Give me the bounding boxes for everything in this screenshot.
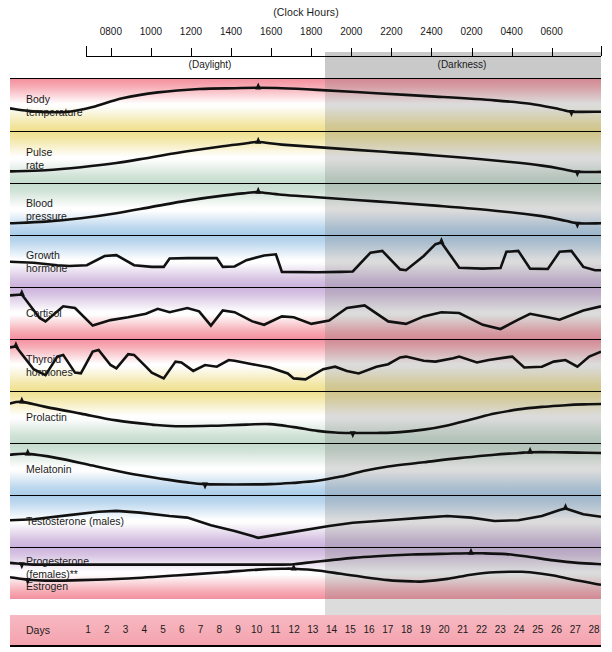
row-label-8: Melatonin xyxy=(26,463,72,476)
curve-group-7 xyxy=(10,391,601,443)
clock-tick-1600 xyxy=(271,48,272,56)
rhythm-row-8: Melatonin xyxy=(10,443,601,495)
row-divider-3 xyxy=(10,235,601,236)
darkness-label: (Darkness) xyxy=(438,59,487,70)
curve-cortisol xyxy=(10,295,601,330)
day-number-7: 7 xyxy=(198,624,204,635)
curve-blood-pressure xyxy=(10,192,601,223)
curve-group-6 xyxy=(10,339,601,391)
day-number-5: 5 xyxy=(160,624,166,635)
rhythm-row-7: Prolactin xyxy=(10,391,601,443)
row-divider-4 xyxy=(10,287,601,288)
clock-tick-label-0200: 0200 xyxy=(460,26,482,37)
curve-group-1 xyxy=(10,79,601,131)
clock-tick-label-2000: 2000 xyxy=(340,26,362,37)
day-number-8: 8 xyxy=(216,624,222,635)
row-label-2: Pulse rate xyxy=(26,146,52,171)
clock-tick-1000 xyxy=(151,48,152,56)
curve-melatonin xyxy=(10,452,601,484)
day-number-12: 12 xyxy=(289,624,300,635)
peak-marker xyxy=(468,548,474,555)
clock-hours-title: (Clock Hours) xyxy=(0,6,612,18)
peak-marker xyxy=(19,396,25,403)
peak-marker xyxy=(255,137,261,144)
row-label-3: Blood pressure xyxy=(26,197,67,222)
clock-tick-0800 xyxy=(111,48,112,56)
clock-tick-label-1600: 1600 xyxy=(260,26,282,37)
peak-marker xyxy=(19,289,25,296)
rhythm-row-9: Testosterone (males) xyxy=(10,495,601,547)
clock-tick-0200 xyxy=(472,48,473,56)
day-number-28: 28 xyxy=(588,624,599,635)
row-label-4: Growth hormone xyxy=(26,249,67,274)
row-divider-2 xyxy=(10,183,601,184)
row-label-10: Progesterone (females)** Estrogen xyxy=(26,555,89,593)
clock-tick-2400 xyxy=(431,48,432,56)
clock-axis: 0800100012001400160018002000220024000200… xyxy=(0,26,612,72)
peak-marker xyxy=(25,448,31,455)
rhythm-row-5: Cortisol xyxy=(10,287,601,339)
curve-progesterone-females xyxy=(10,553,601,564)
curve-thyroid-hormones xyxy=(10,347,601,380)
rhythm-row-1: Body temperature xyxy=(10,79,601,131)
trough-marker xyxy=(202,483,208,490)
rhythm-row-4: Growth hormone xyxy=(10,235,601,287)
curve-group-8 xyxy=(10,443,601,495)
day-number-6: 6 xyxy=(179,624,185,635)
peak-marker xyxy=(527,447,533,454)
clock-axis-cap-left xyxy=(86,46,87,56)
clock-tick-label-0400: 0400 xyxy=(500,26,522,37)
days-axis-label: Days xyxy=(26,624,50,636)
peak-marker xyxy=(13,341,19,348)
curve-group-2 xyxy=(10,132,601,184)
day-number-17: 17 xyxy=(382,624,393,635)
curve-group-10 xyxy=(10,547,601,599)
row-label-5: Cortisol xyxy=(26,307,62,320)
clock-tick-2000 xyxy=(351,48,352,56)
clock-tick-label-1000: 1000 xyxy=(140,26,162,37)
day-number-9: 9 xyxy=(235,624,241,635)
day-number-14: 14 xyxy=(326,624,337,635)
day-number-22: 22 xyxy=(476,624,487,635)
day-number-21: 21 xyxy=(457,624,468,635)
peak-marker xyxy=(563,503,569,510)
day-number-26: 26 xyxy=(551,624,562,635)
clock-tick-label-2400: 2400 xyxy=(420,26,442,37)
row-divider-1 xyxy=(10,131,601,132)
trough-marker xyxy=(19,562,25,569)
trough-marker xyxy=(568,110,574,117)
row-label-9: Testosterone (males) xyxy=(26,515,124,528)
clock-tick-label-0800: 0800 xyxy=(100,26,122,37)
rhythm-row-3: Blood pressure xyxy=(10,183,601,235)
curve-estrogen xyxy=(10,569,601,585)
curve-group-4 xyxy=(10,235,601,287)
day-number-4: 4 xyxy=(141,624,147,635)
row-divider-5 xyxy=(10,339,601,340)
clock-tick-label-1400: 1400 xyxy=(220,26,242,37)
clock-axis-cap-right xyxy=(601,46,602,56)
day-number-24: 24 xyxy=(513,624,524,635)
curve-pulse-rate xyxy=(10,142,601,172)
peak-marker xyxy=(255,82,261,89)
trough-marker xyxy=(350,431,356,438)
day-number-23: 23 xyxy=(495,624,506,635)
rhythm-chart-panel: Body temperaturePulse rateBlood pressure… xyxy=(10,78,601,647)
clock-tick-0600 xyxy=(552,48,553,56)
row-divider-7 xyxy=(10,443,601,444)
day-number-20: 20 xyxy=(439,624,450,635)
trough-marker xyxy=(574,222,580,229)
day-number-15: 15 xyxy=(345,624,356,635)
days-axis: Days 12345678910111213141516171819202122… xyxy=(10,615,601,645)
peak-marker xyxy=(438,237,444,244)
peak-marker xyxy=(255,187,261,194)
rhythm-row-2: Pulse rate xyxy=(10,131,601,184)
day-number-16: 16 xyxy=(364,624,375,635)
day-number-18: 18 xyxy=(401,624,412,635)
day-number-11: 11 xyxy=(270,624,280,635)
clock-tick-label-2200: 2200 xyxy=(380,26,402,37)
clock-tick-1800 xyxy=(311,48,312,56)
day-number-1: 1 xyxy=(85,624,91,635)
row-label-6: Thyroid hormones xyxy=(26,353,73,378)
row-label-7: Prolactin xyxy=(26,411,67,424)
clock-tick-0400 xyxy=(512,48,513,56)
